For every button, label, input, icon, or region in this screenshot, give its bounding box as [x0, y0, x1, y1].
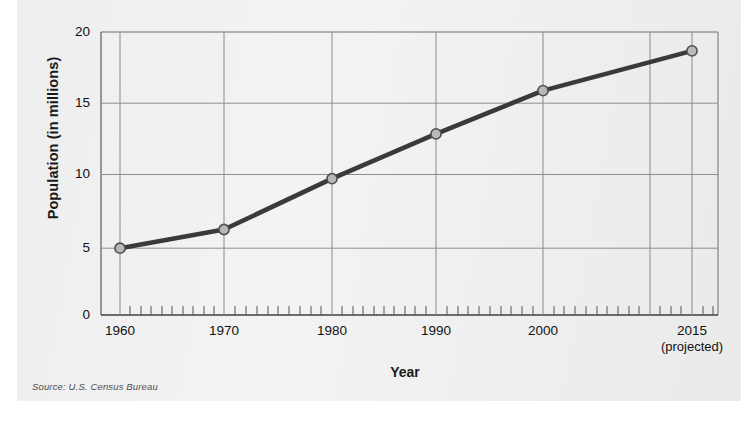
x-tick-label-2015-projected: (projected) — [637, 339, 747, 354]
figure-root: 20 15 10 5 0 1960 1970 1980 1990 2000 20… — [0, 0, 756, 429]
chart-plot-wrapper: 20 15 10 5 0 1960 1970 1980 1990 2000 20… — [0, 0, 756, 429]
data-point-2000 — [538, 86, 548, 96]
x-axis-title-text: Year — [390, 364, 420, 380]
x-tick-label-1970: 1970 — [169, 323, 279, 338]
x-tick-label-1960: 1960 — [65, 323, 175, 338]
x-tick-label-1980: 1980 — [277, 323, 387, 338]
x-tick-label-2015: 2015 (projected) — [637, 323, 747, 354]
x-tick-label-1990: 1990 — [381, 323, 491, 338]
data-point-1960 — [115, 243, 125, 253]
x-axis-title: Year — [0, 364, 756, 380]
data-point-1980 — [327, 174, 337, 184]
source-note: Source: U.S. Census Bureau — [32, 381, 158, 392]
population-line-series — [120, 51, 692, 248]
x-axis-minor-ticks — [130, 306, 713, 315]
plot-frame — [101, 32, 718, 315]
y-tick-label-0: 0 — [50, 307, 90, 322]
data-point-markers — [115, 46, 697, 253]
x-tick-label-2015-year: 2015 — [677, 323, 707, 338]
y-axis-title: Population (in millions) — [45, 23, 61, 253]
data-point-1990 — [431, 129, 441, 139]
data-point-2015 — [687, 46, 697, 56]
horizontal-gridlines — [101, 103, 718, 248]
x-tick-label-2000: 2000 — [488, 323, 598, 338]
data-point-1970 — [219, 224, 229, 234]
